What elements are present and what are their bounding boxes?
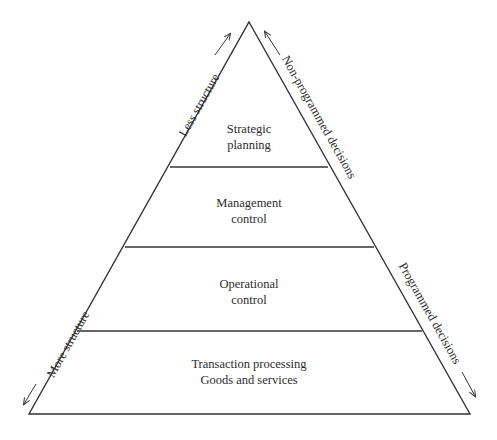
level-label-line1: Strategic <box>227 121 271 137</box>
level-label-line1: Transaction processing <box>191 356 306 372</box>
arrow-down-right-icon <box>462 372 475 396</box>
arrow-up-left-icon <box>265 32 280 55</box>
level-label-line2: planning <box>227 137 271 153</box>
level-label-line1: Management <box>216 195 281 211</box>
level-label-line2: control <box>216 211 281 227</box>
level-transaction-processing: Transaction processing Goods and service… <box>191 356 306 388</box>
arrow-down-left-icon <box>24 384 36 404</box>
level-operational-control: Operational control <box>219 276 278 308</box>
level-management-control: Management control <box>216 195 281 227</box>
level-strategic-planning: Strategic planning <box>227 121 271 153</box>
level-label-line2: control <box>219 292 278 308</box>
arrow-up-right-icon <box>215 34 230 55</box>
level-label-line2: Goods and services <box>191 372 306 388</box>
level-label-line1: Operational <box>219 276 278 292</box>
